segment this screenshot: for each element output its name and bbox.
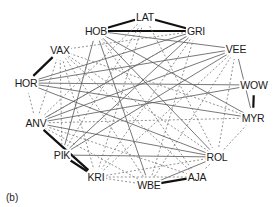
graph-canvas xyxy=(0,0,278,207)
graph-edge xyxy=(204,164,210,170)
graph-edge xyxy=(43,24,137,116)
graph-edge xyxy=(28,93,33,113)
graph-edge xyxy=(69,38,188,148)
graph-edge xyxy=(33,57,52,76)
graph-edge xyxy=(46,118,243,123)
graph-node-rol[interactable]: ROL xyxy=(206,152,229,163)
graph-edge xyxy=(60,60,62,145)
graph-edge xyxy=(155,20,186,29)
graph-node-hob[interactable]: HOB xyxy=(84,26,108,37)
network-graph-figure: LATHOBGRIVEEWOWMYRROLAJAWBEKRIPIKANVHORV… xyxy=(0,0,278,207)
graph-node-hor[interactable]: HOR xyxy=(14,78,39,89)
graph-edge xyxy=(103,38,210,149)
graph-node-vax[interactable]: VAX xyxy=(49,45,71,56)
graph-node-lat[interactable]: LAT xyxy=(135,12,155,23)
graph-node-anv[interactable]: ANV xyxy=(25,118,48,129)
graph-node-kri[interactable]: KRI xyxy=(87,172,106,183)
graph-edge xyxy=(224,125,246,149)
graph-edge xyxy=(106,20,135,28)
graph-edge xyxy=(219,59,234,147)
graph-node-wow[interactable]: WOW xyxy=(239,80,268,91)
graph-edge xyxy=(106,179,139,184)
panel-caption: (b) xyxy=(6,192,18,203)
graph-node-aja[interactable]: AJA xyxy=(187,172,208,183)
graph-node-gri[interactable]: GRI xyxy=(186,26,206,37)
graph-node-vee[interactable]: VEE xyxy=(225,44,247,55)
graph-node-myr[interactable]: MYR xyxy=(241,113,266,124)
graph-node-wbe[interactable]: WBE xyxy=(136,180,161,191)
graph-node-pik[interactable]: PIK xyxy=(53,150,71,161)
